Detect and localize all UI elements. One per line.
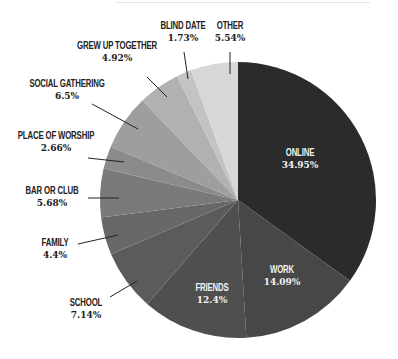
label-bar-or-club-pct: 5.68% xyxy=(18,197,86,209)
label-friends-pct: 12.4% xyxy=(191,294,234,306)
label-bar-or-club: BAR OR CLUB 5.68% xyxy=(18,185,86,209)
label-blind-date-pct: 1.73% xyxy=(154,32,212,44)
label-online-name: ONLINE xyxy=(286,147,315,159)
label-grew-up-together-name: GREW UP TOGETHER xyxy=(77,40,157,52)
label-work-name: WORK xyxy=(268,264,297,276)
label-family-name: FAMILY xyxy=(42,237,69,249)
label-social-gathering-name: SOCIAL GATHERING xyxy=(29,78,104,90)
label-work-pct: 14.09% xyxy=(264,276,301,288)
label-family-pct: 4.4% xyxy=(38,249,73,261)
label-other-name: OTHER xyxy=(217,20,244,32)
label-online-pct: 34.95% xyxy=(282,159,319,171)
label-blind-date-name: BLIND DATE xyxy=(160,20,205,32)
label-family: FAMILY 4.4% xyxy=(38,237,73,261)
pie-slices xyxy=(100,62,376,338)
label-work: WORK 14.09% xyxy=(264,264,301,288)
label-bar-or-club-name: BAR OR CLUB xyxy=(26,185,79,197)
label-friends-name: FRIENDS xyxy=(195,282,228,294)
label-school-name: SCHOOL xyxy=(70,297,102,309)
label-other: OTHER 5.54% xyxy=(213,20,247,44)
label-school: SCHOOL 7.14% xyxy=(65,297,107,321)
label-other-pct: 5.54% xyxy=(213,32,247,44)
label-blind-date: BLIND DATE 1.73% xyxy=(154,20,212,44)
label-place-of-worship: PLACE OF WORSHIP 2.66% xyxy=(7,130,105,154)
label-online: ONLINE 34.95% xyxy=(282,147,319,171)
label-place-of-worship-name: PLACE OF WORSHIP xyxy=(18,130,94,142)
label-friends: FRIENDS 12.4% xyxy=(191,282,234,306)
label-social-gathering-pct: 6.5% xyxy=(19,90,115,102)
label-school-pct: 7.14% xyxy=(65,309,107,321)
label-grew-up-together-pct: 4.92% xyxy=(66,52,169,64)
label-social-gathering: SOCIAL GATHERING 6.5% xyxy=(19,78,115,102)
label-grew-up-together: GREW UP TOGETHER 4.92% xyxy=(66,40,169,64)
label-place-of-worship-pct: 2.66% xyxy=(7,142,105,154)
